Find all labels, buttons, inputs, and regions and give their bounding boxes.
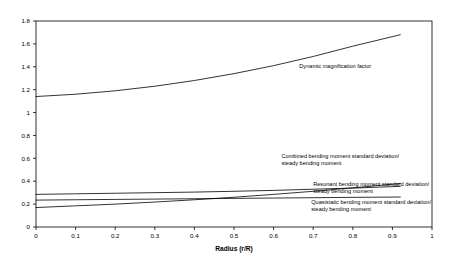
y-tick-label: 1.6 <box>21 40 30 47</box>
annotation-label: Dynamic magnification factor <box>299 63 371 69</box>
y-tick-label: 0 <box>27 223 31 230</box>
y-tick-label: 1.4 <box>21 63 30 70</box>
x-tick-label: 0.6 <box>269 232 278 239</box>
y-tick-label: 1 <box>27 109 31 116</box>
annotation-label: steady bending moment <box>311 206 371 212</box>
annotation-label: Quasistatic bending moment standard devi… <box>311 199 431 205</box>
chart-container: 00.20.40.60.811.21.41.61.8 00.10.20.30.4… <box>0 0 461 267</box>
y-tick-label: 0.6 <box>21 155 30 162</box>
x-tick-label: 0.8 <box>348 232 357 239</box>
x-tick-label: 0.4 <box>190 232 199 239</box>
y-tick-label: 1.8 <box>21 17 30 24</box>
annotation-label: steady bending moment <box>282 160 342 166</box>
annotation-label: steady bending moment <box>313 188 373 194</box>
y-tick-label: 0.8 <box>21 132 30 139</box>
x-tick-label: 0.3 <box>150 232 159 239</box>
x-tick-label: 0.7 <box>309 232 318 239</box>
annotation-label: Combined bending moment standard deviati… <box>282 153 400 159</box>
y-tick-label: 1.2 <box>21 86 30 93</box>
bending-moment-line-chart: 00.20.40.60.811.21.41.61.8 00.10.20.30.4… <box>0 0 461 267</box>
x-tick-label: 1 <box>430 232 434 239</box>
x-tick-label: 0.1 <box>71 232 80 239</box>
y-tick-label: 0.2 <box>21 200 30 207</box>
y-tick-label: 0.4 <box>21 177 30 184</box>
annotation-dynamic-magnification-factor: Dynamic magnification factor <box>299 63 371 69</box>
x-tick-label: 0.9 <box>388 232 397 239</box>
x-tick-label: 0 <box>34 232 38 239</box>
x-tick-label: 0.2 <box>111 232 120 239</box>
annotation-label: Resonant bending moment standard deviati… <box>313 181 429 187</box>
x-tick-label: 0.5 <box>230 232 239 239</box>
x-axis-title: Radius (r/R) <box>215 245 252 253</box>
